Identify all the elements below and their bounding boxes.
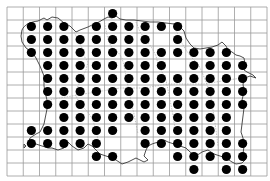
occurrence-dot xyxy=(108,126,117,135)
occurrence-dot xyxy=(157,126,166,135)
occurrence-dot xyxy=(189,48,198,57)
occurrence-dot xyxy=(43,126,52,135)
occurrence-dot xyxy=(222,165,231,174)
occurrence-dot xyxy=(189,100,198,109)
occurrence-dot xyxy=(76,48,85,57)
occurrence-dot xyxy=(59,139,68,148)
occurrence-dot xyxy=(59,61,68,70)
occurrence-dot xyxy=(43,100,52,109)
occurrence-dot xyxy=(173,152,182,161)
occurrence-dot xyxy=(238,152,247,161)
occurrence-dot xyxy=(76,87,85,96)
occurrence-dot xyxy=(43,87,52,96)
occurrence-dot xyxy=(157,74,166,83)
occurrence-dot xyxy=(92,139,101,148)
occurrence-dot xyxy=(189,139,198,148)
occurrence-dot xyxy=(92,113,101,122)
coastline-outline xyxy=(21,16,256,164)
occurrence-dot xyxy=(222,61,231,70)
occurrence-dot xyxy=(27,48,36,57)
occurrence-dot xyxy=(189,61,198,70)
occurrence-dot xyxy=(206,74,215,83)
occurrence-dot xyxy=(92,87,101,96)
occurrence-dot xyxy=(157,22,166,31)
occurrence-dot xyxy=(141,22,150,31)
occurrence-dot xyxy=(76,113,85,122)
occurrence-dot xyxy=(124,100,133,109)
occurrence-dot xyxy=(141,61,150,70)
occurrence-dot xyxy=(238,139,247,148)
occurrence-dot xyxy=(108,35,117,44)
occurrence-dot xyxy=(157,87,166,96)
occurrence-dot xyxy=(27,35,36,44)
occurrence-dot xyxy=(206,139,215,148)
occurrence-dot xyxy=(173,113,182,122)
occurrence-dot xyxy=(222,87,231,96)
occurrence-dot xyxy=(173,126,182,135)
occurrence-dot xyxy=(222,139,231,148)
occurrence-dot xyxy=(238,74,247,83)
occurrence-dot xyxy=(76,35,85,44)
occurrence-dot xyxy=(189,165,198,174)
occurrence-dot xyxy=(124,87,133,96)
distribution-map xyxy=(0,0,270,181)
occurrence-dot xyxy=(59,126,68,135)
occurrence-dot xyxy=(27,139,36,148)
occurrence-dot xyxy=(76,100,85,109)
occurrence-dot xyxy=(222,74,231,83)
occurrence-dot xyxy=(173,48,182,57)
occurrence-dot xyxy=(92,22,101,31)
occurrence-dot xyxy=(124,113,133,122)
occurrence-dot xyxy=(92,74,101,83)
occurrence-dot xyxy=(108,22,117,31)
occurrence-dot xyxy=(43,61,52,70)
occurrence-dot xyxy=(189,74,198,83)
occurrence-dot xyxy=(157,61,166,70)
occurrence-dot xyxy=(141,113,150,122)
occurrence-dot xyxy=(222,126,231,135)
occurrence-dot xyxy=(141,126,150,135)
occurrence-dot xyxy=(108,9,117,18)
occurrence-dot xyxy=(141,48,150,57)
occurrence-dot xyxy=(92,48,101,57)
occurrence-dot xyxy=(108,74,117,83)
occurrence-dot xyxy=(206,87,215,96)
occurrence-dot xyxy=(157,139,166,148)
occurrence-dot xyxy=(173,139,182,148)
occurrence-dot xyxy=(27,22,36,31)
occurrence-dot xyxy=(43,48,52,57)
occurrence-dot xyxy=(141,100,150,109)
occurrence-dot xyxy=(173,100,182,109)
occurrence-dot xyxy=(59,87,68,96)
occurrence-dot xyxy=(206,126,215,135)
occurrence-dot xyxy=(43,22,52,31)
occurrence-dot xyxy=(238,165,247,174)
occurrence-dot xyxy=(59,22,68,31)
occurrence-dot xyxy=(238,100,247,109)
occurrence-dot xyxy=(157,48,166,57)
occurrence-dot xyxy=(108,152,117,161)
occurrence-dot xyxy=(92,152,101,161)
occurrence-dot xyxy=(206,100,215,109)
occurrence-dot xyxy=(108,87,117,96)
occurrence-dot xyxy=(27,126,36,135)
occurrence-dot xyxy=(173,87,182,96)
occurrence-dot xyxy=(92,100,101,109)
occurrence-dot xyxy=(206,113,215,122)
occurrence-dot xyxy=(92,126,101,135)
occurrence-dot xyxy=(108,113,117,122)
occurrence-dot xyxy=(222,48,231,57)
occurrence-dot xyxy=(173,22,182,31)
occurrence-dot xyxy=(222,113,231,122)
occurrence-dot xyxy=(43,74,52,83)
occurrence-dot xyxy=(157,113,166,122)
occurrence-dot xyxy=(108,61,117,70)
occurrence-dot xyxy=(141,139,150,148)
occurrence-dot xyxy=(238,87,247,96)
occurrence-dot xyxy=(189,152,198,161)
occurrence-dot xyxy=(59,100,68,109)
occurrence-dot xyxy=(59,48,68,57)
occurrence-dot xyxy=(189,113,198,122)
occurrence-dot xyxy=(222,100,231,109)
occurrence-dot xyxy=(222,152,231,161)
